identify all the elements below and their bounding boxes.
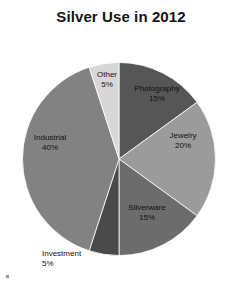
slice-label-jewelry: Jewelry 20% <box>158 131 208 151</box>
scan-artifact-mark <box>6 275 9 278</box>
slice-label-jewelry-name: Jewelry <box>169 131 196 140</box>
slice-label-silverware-name: Silverware <box>128 203 165 212</box>
chart-title: Silver Use in 2012 <box>0 8 242 25</box>
slice-label-silverware-percent: 15% <box>118 213 176 223</box>
slice-label-investment-name: Investment <box>42 249 81 258</box>
slice-label-photography-name: Photography <box>134 84 179 93</box>
slice-label-other-name: Other <box>97 70 117 79</box>
slice-label-photography: Photography 15% <box>124 84 190 104</box>
slice-label-jewelry-percent: 20% <box>158 141 208 151</box>
slice-label-investment: Investment 5% <box>42 249 108 269</box>
pie-chart-figure: Silver Use in 2012 Other 5% Photography … <box>0 0 242 286</box>
slice-label-investment-percent: 5% <box>42 259 108 269</box>
slice-label-industrial-name: Industrial <box>34 133 66 142</box>
slice-label-photography-percent: 15% <box>124 94 190 104</box>
slice-label-industrial-percent: 40% <box>24 143 76 153</box>
slice-label-silverware: Silverware 15% <box>118 203 176 223</box>
slice-label-industrial: Industrial 40% <box>24 133 76 153</box>
